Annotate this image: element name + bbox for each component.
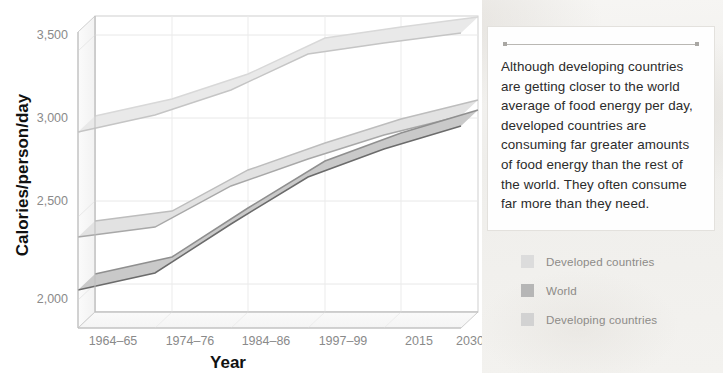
chart-floor (78, 312, 478, 328)
y-axis-title: Calories/person/day (13, 93, 32, 256)
x-tick-label: 1974–76 (166, 334, 215, 348)
legend-item-label: Developed countries (546, 255, 655, 268)
legend-item-label: Developing countries (546, 313, 657, 326)
rule-cap-right-icon (695, 42, 699, 46)
legend-item-world[interactable]: World (521, 276, 721, 305)
rule-line (507, 44, 695, 45)
commentary-text: Although developing countries are gettin… (501, 57, 701, 214)
y-tick-label: 3,000 (37, 111, 68, 125)
x-tick-label: 2015 (405, 334, 433, 348)
x-tick-label: 2030 (456, 334, 482, 348)
x-tick-label: 1997–99 (319, 334, 368, 348)
chart-legend: Developed countries World Developing cou… (521, 247, 721, 334)
legend-item-label: World (546, 284, 577, 297)
y-tick-label: 2,000 (37, 292, 68, 306)
commentary-panel: Although developing countries are gettin… (487, 26, 715, 231)
chart-container: 3,500 3,000 2,500 2,000 Calories/person/… (0, 0, 482, 373)
legend-item-developed-countries[interactable]: Developed countries (521, 247, 721, 276)
x-tick-label: 1964–65 (89, 334, 138, 348)
legend-swatch-icon (521, 284, 534, 297)
legend-swatch-icon (521, 313, 534, 326)
legend-item-developing-countries[interactable]: Developing countries (521, 305, 721, 334)
x-axis-title: Year (210, 353, 246, 372)
panel-divider-rule (503, 41, 699, 48)
y-tick-label: 2,500 (37, 194, 68, 208)
legend-swatch-icon (521, 255, 534, 268)
x-tick-label: 1984–86 (242, 334, 291, 348)
line-chart: 3,500 3,000 2,500 2,000 Calories/person/… (0, 0, 482, 373)
y-tick-label: 3,500 (37, 28, 68, 42)
